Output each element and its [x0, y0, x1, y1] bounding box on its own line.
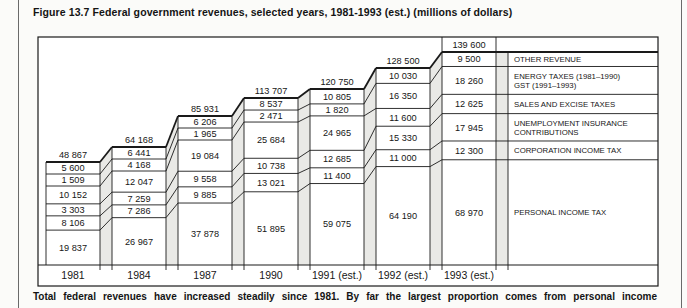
- column-total: 48 867: [59, 150, 87, 160]
- segment-value: 19 084: [191, 151, 219, 161]
- year-label: 1984: [127, 269, 151, 281]
- column-total: 139 600: [452, 40, 485, 50]
- segment-value: 10 805: [323, 92, 351, 102]
- segment-value: 12 625: [455, 99, 483, 109]
- segment-value: 5 600: [62, 163, 85, 173]
- category-label: ENERGY TAXES (1981–1990): [514, 72, 621, 81]
- year-label: 1992 (est.): [378, 269, 428, 281]
- segment-value: 37 878: [191, 229, 219, 239]
- category-label: OTHER REVENUE: [514, 55, 581, 64]
- column-total: 120 750: [320, 77, 353, 87]
- segment-value: 17 945: [455, 123, 483, 133]
- depth-strip: [364, 68, 376, 265]
- segment-value: 10 738: [257, 161, 285, 171]
- segment-value: 8 537: [260, 99, 283, 109]
- segment-value: 15 330: [389, 133, 417, 143]
- segment-value: 11 400: [323, 171, 350, 181]
- column-total: 64 168: [125, 135, 153, 145]
- segment-value: 1 965: [194, 129, 217, 139]
- year-label: 1981: [61, 269, 85, 281]
- segment-value: 25 684: [257, 135, 285, 145]
- segment-value: 3 303: [62, 205, 85, 215]
- year-label: 1991 (est.): [312, 269, 362, 281]
- segment-value: 13 021: [257, 178, 285, 188]
- category-label: SALES AND EXCISE TAXES: [514, 100, 615, 109]
- segment-value: 4 168: [128, 160, 151, 170]
- segment-value: 26 967: [125, 237, 153, 247]
- scanned-textbook-page: Figure 13.7 Federal government revenues,…: [0, 0, 687, 308]
- segment-value: 18 260: [455, 76, 483, 86]
- segment-value: 12 047: [125, 177, 153, 187]
- category-label: CONTRIBUTIONS: [514, 128, 579, 137]
- segment-value: 59 075: [323, 219, 351, 229]
- segment-value: 16 350: [389, 91, 417, 101]
- segment-value: 10 152: [59, 190, 87, 200]
- segment-value: 12 300: [455, 146, 483, 156]
- year-label: 1990: [259, 269, 283, 281]
- segment-value: 7 259: [128, 194, 151, 204]
- segment-value: 11 000: [389, 153, 416, 163]
- segment-value: 19 837: [59, 243, 87, 253]
- year-label: 1987: [193, 269, 217, 281]
- depth-strip: [232, 98, 244, 265]
- segment-value: 11 600: [389, 113, 416, 123]
- segment-value: 1 509: [62, 175, 85, 185]
- segment-value: 6 441: [128, 148, 151, 158]
- depth-strip: [496, 52, 508, 265]
- revenue-step-chart: 19 8378 1063 30310 1521 5095 60048 86719…: [0, 0, 687, 308]
- category-label: PERSONAL INCOME TAX: [514, 208, 607, 217]
- depth-strip: [430, 52, 442, 265]
- segment-value: 68 970: [455, 208, 483, 218]
- category-label: GST (1991–1993): [514, 81, 577, 90]
- segment-value: 2 471: [260, 111, 283, 121]
- segment-value: 51 895: [257, 224, 285, 234]
- column-total: 128 500: [386, 56, 419, 66]
- segment-value: 64 190: [389, 211, 417, 221]
- segment-value: 7 286: [128, 206, 151, 216]
- segment-value: 9 500: [458, 54, 481, 64]
- column-total: 113 707: [255, 86, 288, 96]
- segment-value: 6 206: [194, 117, 217, 127]
- segment-value: 1 820: [326, 105, 349, 115]
- segment-value: 8 106: [62, 218, 85, 228]
- depth-strip: [298, 89, 310, 265]
- column-total: 85 931: [191, 104, 219, 114]
- category-label: CORPORATION INCOME TAX: [514, 146, 622, 155]
- figure-caption: Total federal revenues have increased st…: [33, 291, 657, 302]
- segment-value: 9 885: [194, 190, 217, 200]
- segment-value: 12 685: [323, 154, 351, 164]
- category-label: UNEMPLOYMENT INSURANCE: [514, 119, 628, 128]
- segment-value: 10 030: [389, 71, 417, 81]
- segment-value: 9 558: [194, 174, 217, 184]
- year-label: 1993 (est.): [444, 269, 494, 281]
- segment-value: 24 965: [323, 128, 351, 138]
